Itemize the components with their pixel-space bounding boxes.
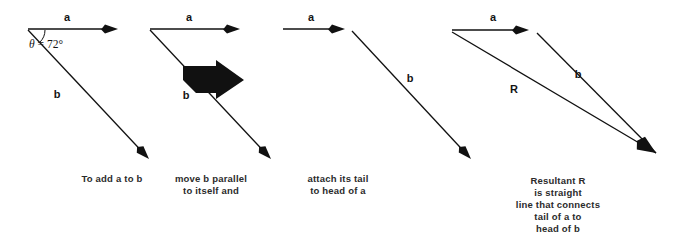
caption-line: line that connects — [516, 199, 600, 210]
label-a: a — [64, 11, 71, 23]
caption-line: To add a to b — [81, 173, 142, 184]
label-a: a — [186, 11, 193, 23]
caption-line: head of b — [536, 223, 580, 234]
theta-value: = 72° — [35, 38, 64, 50]
label-a: a — [490, 11, 497, 23]
label-b: b — [407, 72, 414, 84]
caption-line: move b parallel — [175, 173, 247, 184]
label-R: R — [510, 83, 518, 95]
caption-line: to itself and — [183, 185, 239, 196]
label-b: b — [54, 88, 61, 100]
caption-line: attach its tail — [307, 173, 368, 184]
label-b: b — [575, 68, 582, 80]
panel-1-caption: To add a to b — [81, 173, 142, 184]
label-theta: θ = 72° — [29, 38, 63, 50]
caption-line: is straight — [534, 187, 582, 198]
label-a: a — [308, 11, 315, 23]
caption-line: Resultant R — [531, 175, 586, 186]
vector-addition-figure: abθ = 72°To add a to babmove b parallelt… — [0, 0, 675, 250]
caption-line: to head of a — [310, 185, 366, 196]
panel-3-caption: attach its tailto head of a — [307, 173, 368, 196]
panel-2-caption: move b parallelto itself and — [175, 173, 247, 196]
caption-line: tail of a to — [534, 211, 581, 222]
label-b: b — [183, 89, 190, 101]
